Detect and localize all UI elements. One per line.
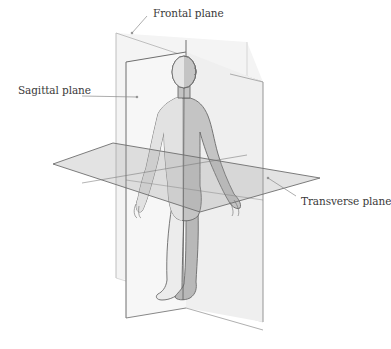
frontal-leader <box>132 16 147 33</box>
transverse-plane-label: Transverse plane <box>301 195 391 207</box>
frontal-plane-label: Frontal plane <box>153 7 224 19</box>
sagittal-plane-label: Sagittal plane <box>18 84 91 96</box>
